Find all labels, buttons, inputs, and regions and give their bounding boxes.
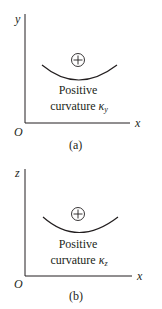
circle-plus-icon bbox=[72, 54, 85, 67]
panel-a: y x O Positive curvature κy (a) bbox=[0, 0, 162, 154]
curvature-word: curvature bbox=[50, 253, 95, 267]
origin-label: O bbox=[14, 126, 23, 138]
vertical-axis-label: z bbox=[15, 167, 20, 179]
origin-label: O bbox=[14, 278, 23, 290]
curvature-word: curvature bbox=[50, 99, 95, 113]
panel-b: z x O Positive curvature κz (b) bbox=[0, 155, 162, 309]
curvature-arc bbox=[43, 217, 118, 233]
positive-label: Positive bbox=[48, 238, 108, 250]
kappa-subscript: y bbox=[104, 105, 108, 114]
curvature-arc bbox=[42, 65, 117, 80]
curvature-label: curvature κz bbox=[38, 254, 120, 268]
positive-label: Positive bbox=[48, 84, 108, 96]
panel-caption: (b) bbox=[69, 290, 83, 302]
panel-a-graphics bbox=[0, 0, 162, 154]
vertical-axis-label: y bbox=[15, 13, 20, 25]
horizontal-axis-label: x bbox=[137, 270, 142, 282]
circle-plus-icon bbox=[72, 208, 85, 221]
panel-caption: (a) bbox=[69, 139, 82, 151]
curvature-label: curvature κy bbox=[38, 100, 120, 114]
kappa-subscript: z bbox=[104, 259, 107, 268]
panel-b-graphics bbox=[0, 155, 162, 309]
horizontal-axis-label: x bbox=[135, 117, 140, 129]
